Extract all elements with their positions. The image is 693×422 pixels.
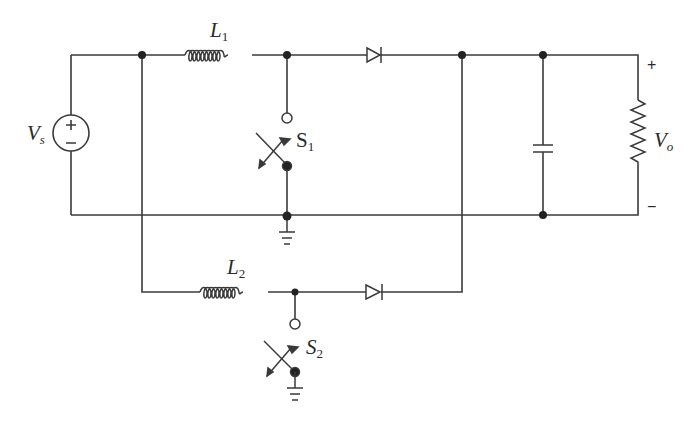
switch-s1-label-sub: 1 (308, 139, 315, 154)
wire-bottom-rail (71, 165, 638, 215)
switch-s1-icon (256, 113, 292, 171)
output-label-sub: o (667, 139, 674, 154)
switch-s2-label: S2 (306, 337, 323, 360)
inductor-l2-label-main: L (227, 255, 239, 279)
circuit-schematic (0, 0, 693, 422)
ground-2-icon (287, 388, 303, 400)
inductor-l1-icon (185, 51, 228, 62)
junction-dot (458, 51, 466, 59)
source-label-main: V (27, 121, 40, 145)
switch-s1-label-main: S (296, 128, 308, 152)
switch-s2-icon (264, 319, 300, 388)
voltage-source-icon (53, 115, 89, 151)
junction-dots (138, 51, 547, 296)
junction-dot (539, 211, 547, 219)
wire-top-right (379, 55, 638, 100)
wire-lower-right (381, 55, 462, 292)
diode-d1-icon (367, 47, 381, 63)
source-label: Vs (27, 123, 45, 146)
inductor-l1-label-sub: 1 (222, 29, 229, 44)
inductor-l1-label: L1 (210, 20, 228, 43)
inductor-l2-label-sub: 2 (239, 266, 246, 281)
inductor-l2-icon (200, 288, 243, 299)
junction-dot (292, 289, 299, 296)
output-label: Vo (654, 130, 673, 153)
resistor-icon (631, 100, 645, 165)
capacitor-icon (533, 145, 553, 152)
inductor-l2-label: L2 (227, 257, 245, 280)
junction-dot (283, 212, 292, 221)
output-plus-sign: + (647, 57, 656, 73)
switch-s2-label-main: S (306, 335, 317, 359)
output-label-main: V (654, 128, 667, 152)
diode-d2-icon (366, 284, 382, 300)
output-minus-sign: − (647, 199, 656, 215)
inductor-l1-label-main: L (210, 18, 222, 42)
switch-s1-label: S1 (296, 130, 314, 153)
junction-dot (539, 51, 547, 59)
junction-dot (138, 51, 146, 59)
junction-dot (283, 51, 291, 59)
source-label-sub: s (40, 132, 45, 147)
switch-s2-label-sub: 2 (317, 346, 324, 361)
wire-left-vertical (142, 55, 200, 292)
